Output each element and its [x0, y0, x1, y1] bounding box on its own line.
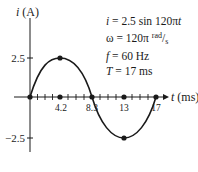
x-tick-label-8.3: 8.3 [86, 103, 98, 113]
y-tick-label-pos: 2.5 [11, 52, 25, 64]
point-origin [27, 94, 32, 99]
point-8.3 [89, 94, 94, 99]
equation-current: i = 2.5 sin 120πt [106, 14, 181, 29]
y-axis-label: i (A) [16, 5, 39, 19]
x-tick-label-4.2: 4.2 [55, 103, 67, 113]
x-tick-label-17: 17 [151, 103, 161, 113]
x-tick-label-13: 13 [119, 103, 129, 113]
equation-frequency: f = 60 Hz [106, 49, 181, 64]
point-peak [57, 55, 62, 60]
point-17 [153, 94, 158, 99]
point-4.2 [57, 94, 62, 99]
x-axis-label: t (ms) [171, 90, 198, 104]
equation-omega: ω = 120π rad/s [106, 29, 181, 50]
point-13 [121, 94, 126, 99]
x-axis-arrow-icon [163, 94, 169, 100]
equation-block: i = 2.5 sin 120πt ω = 120π rad/s f = 60 … [106, 14, 181, 78]
y-tick-label-neg: −2.5 [5, 132, 25, 144]
equation-period: T = 17 ms [106, 64, 181, 79]
point-trough [121, 135, 126, 140]
